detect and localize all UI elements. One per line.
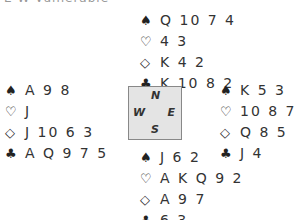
north-hearts: ♡4 3 [140,31,236,52]
vulnerability-label: E-W Vulnerable [4,0,109,5]
south-hearts-cards: A K Q 9 2 [160,170,243,186]
west-hearts: ♡J [5,101,108,122]
west-hearts-cards: J [25,103,31,119]
spade-icon: ♠ [220,81,240,101]
north-spades: ♠Q 10 7 4 [140,10,236,31]
club-icon: ♣ [5,144,25,164]
east-spades: ♠K 5 3 [220,80,303,101]
compass-north: N [151,89,160,102]
diamond-icon: ◇ [220,123,240,143]
compass-box: N W E S [128,86,182,140]
west-hand: ♠A 9 8 ♡J ◇J 10 6 3 ♣A Q 9 7 5 [5,80,108,164]
east-hearts-cards: 10 8 7 6 5 [240,103,303,119]
spade-icon: ♠ [140,148,160,168]
north-diamonds: ◇K 4 2 [140,52,236,73]
east-diamonds: ◇Q 8 5 [220,122,303,143]
west-spades: ♠A 9 8 [5,80,108,101]
diamond-icon: ◇ [5,123,25,143]
east-hearts: ♡10 8 7 6 5 [220,101,303,122]
club-icon: ♣ [140,211,160,220]
south-hand: ♠J 6 2 ♡A K Q 9 2 ◇A 9 7 ♣6 3 [140,147,243,220]
diamond-icon: ◇ [140,53,160,73]
east-spades-cards: K 5 3 [240,82,286,98]
compass-south: S [151,123,159,136]
south-diamonds-cards: A 9 7 [160,191,206,207]
spade-icon: ♠ [5,81,25,101]
spade-icon: ♠ [140,11,160,31]
south-hearts: ♡A K Q 9 2 [140,168,243,189]
north-diamonds-cards: K 4 2 [160,54,206,70]
south-spades-cards: J 6 2 [160,149,201,165]
south-clubs-cards: 6 3 [160,212,188,220]
heart-icon: ♡ [220,102,240,122]
diamond-icon: ◇ [140,190,160,210]
heart-icon: ♡ [140,169,160,189]
south-clubs: ♣6 3 [140,210,243,220]
west-diamonds: ◇J 10 6 3 [5,122,108,143]
east-clubs-cards: J 4 [240,145,264,161]
east-diamonds-cards: Q 8 5 [240,124,288,140]
north-hearts-cards: 4 3 [160,33,188,49]
north-spades-cards: Q 10 7 4 [160,12,236,28]
west-clubs: ♣A Q 9 7 5 [5,143,108,164]
south-diamonds: ◇A 9 7 [140,189,243,210]
west-clubs-cards: A Q 9 7 5 [25,145,108,161]
south-spades: ♠J 6 2 [140,147,243,168]
compass-east: E [167,106,175,119]
heart-icon: ♡ [5,102,25,122]
west-spades-cards: A 9 8 [25,82,71,98]
compass-west: W [133,106,145,119]
west-diamonds-cards: J 10 6 3 [25,124,94,140]
heart-icon: ♡ [140,32,160,52]
